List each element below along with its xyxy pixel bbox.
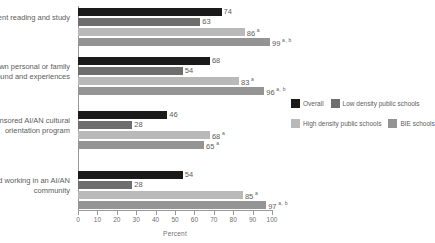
bar [78, 181, 132, 189]
legend-label: BIE schools [400, 119, 434, 128]
bar [78, 171, 183, 179]
x-axis-tick [272, 211, 273, 215]
x-axis-tick-label: 30 [133, 216, 140, 223]
bar-value-label: 99 a, b [270, 37, 292, 48]
bar-row: 83 a [78, 77, 272, 85]
bar-group: 685483 a96 a, b [78, 57, 272, 97]
legend-row: High density public schoolsBIE schools [291, 119, 434, 128]
x-axis-tick-label: 40 [152, 216, 159, 223]
bar [78, 28, 245, 36]
bar-value-label: 54 [183, 66, 193, 75]
x-axis-tick [194, 211, 195, 215]
bar-row: 99 a, b [78, 38, 272, 46]
bar [78, 191, 243, 199]
category-label: Living and working in an AI/AN community [0, 176, 70, 195]
category-label: Your own personal or family background a… [0, 62, 70, 81]
legend-label: High density public schools [303, 119, 381, 128]
bar-row: 28 [78, 121, 272, 129]
bar [78, 201, 266, 209]
bar-row: 54 [78, 171, 272, 179]
category-label: Locally sponsored AI/AN cultural orienta… [0, 116, 70, 135]
plot-area: 746386 a99 a, b685483 a96 a, b462868 a65… [78, 6, 272, 210]
bar-value-label: 74 [222, 7, 232, 16]
bar-row: 68 [78, 57, 272, 65]
bar-row: 97 a, b [78, 201, 272, 209]
x-axis-tick [253, 211, 254, 215]
x-axis-tick [97, 211, 98, 215]
legend-item[interactable]: BIE schools [388, 119, 434, 128]
legend-item[interactable]: High density public schools [291, 119, 381, 128]
bar [78, 131, 210, 139]
bar-value-label: 86 a [245, 27, 260, 38]
chart-legend: OverallLow density public schoolsHigh de… [291, 99, 434, 139]
bar-value-label: 68 [210, 56, 220, 65]
legend-swatch-icon [291, 99, 300, 108]
bar [78, 57, 210, 65]
x-axis-tick [78, 211, 79, 215]
bar-value-label: 63 [200, 17, 210, 26]
x-axis-tick [233, 211, 234, 215]
legend-label: Overall [303, 99, 324, 108]
legend-item[interactable]: Low density public schools [331, 99, 420, 108]
x-axis-tick-label: 90 [249, 216, 256, 223]
bar-row: 46 [78, 111, 272, 119]
bar [78, 67, 183, 75]
bar-value-label: 54 [183, 170, 193, 179]
bar [78, 38, 270, 46]
bar-row: 74 [78, 8, 272, 16]
bar-value-label: 65 a [204, 140, 219, 151]
bar [78, 141, 204, 149]
bar-value-label: 83 a [239, 76, 254, 87]
x-axis-tick-label: 50 [171, 216, 178, 223]
bar-row: 85 a [78, 191, 272, 199]
x-axis-tick-label: 20 [113, 216, 120, 223]
legend-item[interactable]: Overall [291, 99, 324, 108]
x-axis-tick-label: 0 [76, 216, 80, 223]
bar-row: 63 [78, 18, 272, 26]
legend-row: OverallLow density public schools [291, 99, 434, 108]
x-axis-tick [214, 211, 215, 215]
bar-value-label: 28 [132, 120, 142, 129]
bar-row: 68 a [78, 131, 272, 139]
bar-value-label: 85 a [243, 190, 258, 201]
x-axis-tick-label: 100 [267, 216, 278, 223]
category-label: Independent reading and study [0, 13, 70, 23]
bar-value-label: 46 [167, 110, 177, 119]
legend-swatch-icon [291, 119, 300, 128]
bar-value-label: 96 a, b [264, 86, 286, 97]
x-axis-tick-label: 10 [94, 216, 101, 223]
bar-group: 462868 a65 a [78, 111, 272, 151]
bar-row: 86 a [78, 28, 272, 36]
bar [78, 111, 167, 119]
x-axis-title: Percent [163, 230, 187, 237]
x-axis-tick [136, 211, 137, 215]
bar-row: 28 [78, 181, 272, 189]
x-axis-tick-label: 60 [191, 216, 198, 223]
x-axis-tick [117, 211, 118, 215]
bar-row: 96 a, b [78, 87, 272, 95]
bar-row: 65 a [78, 141, 272, 149]
bar-value-label: 68 a [210, 130, 225, 141]
bar [78, 121, 132, 129]
legend-swatch-icon [388, 119, 397, 128]
bar-group: 542885 a97 a, b [78, 171, 272, 211]
bar [78, 18, 200, 26]
x-axis-tick-label: 70 [210, 216, 217, 223]
legend-swatch-icon [331, 99, 340, 108]
bar [78, 77, 239, 85]
bar-row: 54 [78, 67, 272, 75]
bar-value-label: 28 [132, 180, 142, 189]
x-axis-tick [175, 211, 176, 215]
bar [78, 87, 264, 95]
bar-value-label: 97 a, b [266, 200, 288, 211]
bar [78, 8, 222, 16]
x-axis-tick [156, 211, 157, 215]
x-axis-tick-label: 80 [230, 216, 237, 223]
legend-label: Low density public schools [343, 99, 420, 108]
bar-group: 746386 a99 a, b [78, 8, 272, 48]
